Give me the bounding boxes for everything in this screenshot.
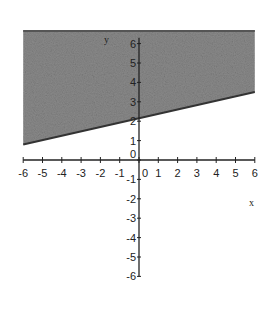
x-tick-label: -4	[57, 167, 67, 179]
x-tick-label: -3	[76, 167, 86, 179]
x-tick-label: 5	[232, 167, 238, 179]
x-tick-label: -2	[96, 167, 106, 179]
y-tick-label: -5	[126, 251, 136, 263]
y-tick-label: 4	[130, 76, 136, 88]
x-tick-label: 1	[155, 167, 161, 179]
y-tick-label: -4	[126, 232, 136, 244]
x-tick-label: 4	[213, 167, 219, 179]
y-tick-label: 0	[130, 148, 136, 160]
x-tick-label: -6	[18, 167, 28, 179]
x-tick-label: -1	[115, 167, 125, 179]
y-tick-label: 1	[130, 135, 136, 147]
x-tick-label: 2	[175, 167, 181, 179]
x-tick-label: 0	[142, 167, 148, 179]
y-axis-label: y	[104, 34, 109, 45]
x-tick-label: -5	[38, 167, 48, 179]
y-tick-label: -2	[126, 193, 136, 205]
x-tick-label: 3	[194, 167, 200, 179]
y-tick-label: -6	[126, 270, 136, 282]
y-tick-label: 5	[130, 57, 136, 69]
y-tick-label: 3	[130, 96, 136, 108]
x-tick-label: 6	[252, 167, 258, 179]
y-tick-label: -3	[126, 212, 136, 224]
y-tick-label: -1	[126, 173, 136, 185]
y-tick-label: 6	[130, 38, 136, 50]
x-axis-label: x	[249, 197, 254, 208]
coordinate-plane: -6-5-4-3-2-10123456 -6-5-4-3-2-10123456 …	[0, 0, 279, 317]
y-tick-label: 2	[130, 115, 136, 127]
